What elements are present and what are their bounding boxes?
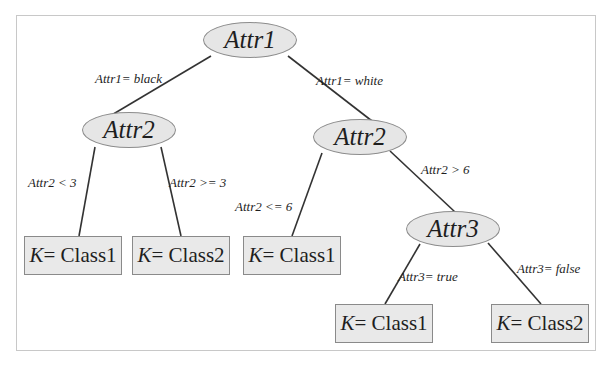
node-attr2-left-label: Attr2: [103, 116, 154, 144]
edge-label-attr2-gt6: Attr2 > 6: [421, 163, 470, 177]
edge-right-gt6: [390, 151, 455, 212]
edge-left-lt3: [79, 147, 95, 236]
edge-label-attr1-black: Attr1= black: [95, 72, 162, 86]
node-attr2-right: Attr2: [313, 119, 407, 155]
leaf-class1-b: K= Class1: [243, 236, 341, 275]
leaf-class-value: = Class2: [151, 243, 224, 268]
node-attr3: Attr3: [406, 211, 500, 247]
leaf-k-symbol: K: [29, 243, 43, 268]
node-attr2-left: Attr2: [82, 112, 176, 148]
leaf-k-symbol: K: [137, 243, 151, 268]
node-attr2-right-label: Attr2: [334, 123, 385, 151]
leaf-class-value: = Class1: [43, 243, 116, 268]
leaf-class1-a: K= Class1: [24, 236, 122, 275]
node-attr1-root: Attr1: [203, 22, 297, 58]
node-attr1-label: Attr1: [224, 26, 275, 54]
edge-left-ge3: [161, 147, 181, 236]
edge-label-attr1-white: Attr1= white: [316, 74, 383, 88]
node-attr3-label: Attr3: [427, 215, 478, 243]
edge-right-le6: [292, 153, 322, 236]
leaf-class-value: = Class1: [262, 243, 335, 268]
edge-label-attr2-ge3: Attr2 >= 3: [169, 176, 226, 190]
leaf-class2-a: K= Class2: [132, 236, 230, 275]
leaf-class-value: = Class1: [354, 311, 427, 336]
leaf-class1-c: K= Class1: [335, 304, 433, 343]
leaf-k-symbol: K: [340, 311, 354, 336]
edge-label-attr3-false: Attr3= false: [517, 262, 580, 276]
leaf-class2-b: K= Class2: [491, 304, 589, 343]
leaf-k-symbol: K: [248, 243, 262, 268]
leaf-class-value: = Class2: [510, 311, 583, 336]
edge-label-attr3-true: Attr3= true: [398, 270, 458, 284]
edge-label-attr2-lt3: Attr2 < 3: [28, 176, 77, 190]
edge-label-attr2-le6: Attr2 <= 6: [235, 200, 292, 214]
leaf-k-symbol: K: [496, 311, 510, 336]
edge-root-right: [288, 56, 372, 121]
edge-root-left: [110, 56, 211, 116]
